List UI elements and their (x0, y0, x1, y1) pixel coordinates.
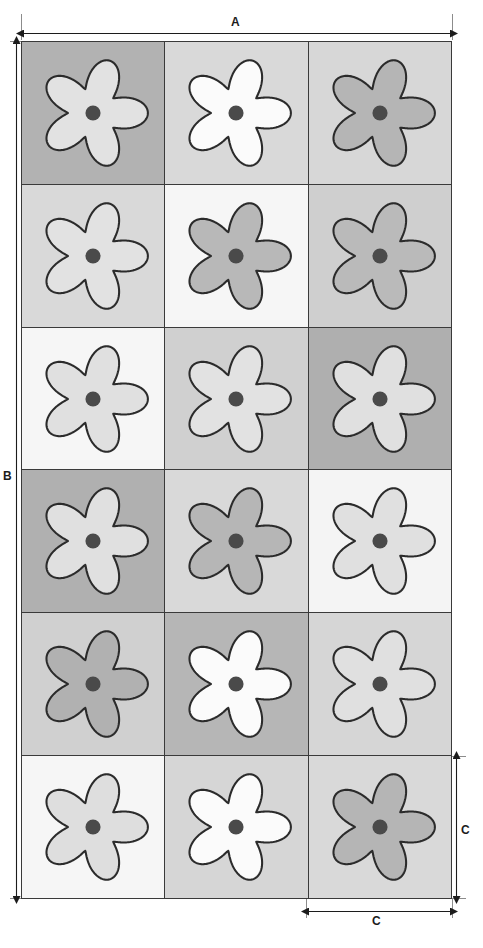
flower-icon (32, 195, 154, 317)
flower-icon (319, 195, 441, 317)
flower-center-dot (86, 534, 101, 549)
flower-tile (309, 613, 451, 755)
flower-icon (175, 766, 297, 888)
flower-center-dot (229, 105, 244, 120)
flower-icon (319, 480, 441, 602)
flower-icon (319, 623, 441, 745)
flower-icon (32, 338, 154, 460)
flower-icon (175, 195, 297, 317)
dimension-label-c-vertical: C (461, 824, 470, 836)
flower-icon (175, 52, 297, 174)
flower-center-dot (86, 820, 101, 835)
flower-center-dot (86, 677, 101, 692)
flower-center-dot (372, 677, 387, 692)
flower-center-dot (229, 677, 244, 692)
flower-tile (22, 185, 164, 327)
flower-tile (22, 42, 164, 184)
flower-center-dot (229, 248, 244, 263)
flower-tile (309, 42, 451, 184)
flower-tile-grid (21, 41, 452, 899)
flower-center-dot (372, 391, 387, 406)
flower-icon (32, 52, 154, 174)
flower-tile (309, 470, 451, 612)
flower-center-dot (372, 534, 387, 549)
dimension-drawing-canvas: A B C C (0, 0, 483, 948)
flower-tile (309, 756, 451, 898)
flower-center-dot (86, 248, 101, 263)
flower-icon (32, 766, 154, 888)
flower-icon (175, 338, 297, 460)
flower-tile (22, 328, 164, 470)
dimension-label-b: B (3, 470, 12, 482)
flower-center-dot (372, 248, 387, 263)
flower-tile (22, 613, 164, 755)
flower-tile (165, 470, 307, 612)
flower-tile (165, 185, 307, 327)
flower-center-dot (86, 391, 101, 406)
dimension-label-c-horizontal: C (372, 915, 381, 927)
flower-tile (309, 328, 451, 470)
flower-icon (319, 766, 441, 888)
flower-icon (319, 52, 441, 174)
flower-icon (32, 623, 154, 745)
flower-tile (165, 756, 307, 898)
flower-tile (165, 328, 307, 470)
flower-icon (319, 338, 441, 460)
flower-center-dot (86, 105, 101, 120)
flower-center-dot (229, 820, 244, 835)
dimension-label-a: A (231, 16, 240, 28)
flower-center-dot (372, 105, 387, 120)
flower-center-dot (229, 534, 244, 549)
flower-tile (165, 42, 307, 184)
flower-tile (22, 756, 164, 898)
flower-icon (32, 480, 154, 602)
flower-icon (175, 623, 297, 745)
flower-center-dot (229, 391, 244, 406)
flower-tile (22, 470, 164, 612)
flower-icon (175, 480, 297, 602)
flower-tile (165, 613, 307, 755)
flower-center-dot (372, 820, 387, 835)
flower-tile (309, 185, 451, 327)
